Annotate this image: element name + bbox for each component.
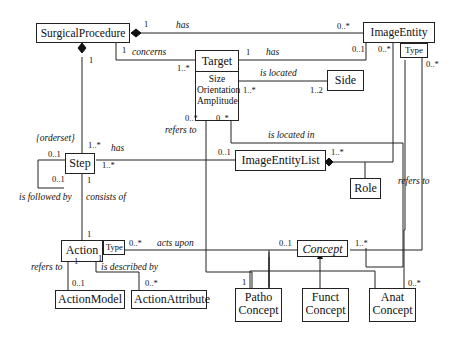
mult-sp-has-ie: 0..* xyxy=(337,21,350,31)
mult-iel-01: 0..1 xyxy=(218,147,231,157)
label-is-described-by: is described by xyxy=(101,262,158,272)
label-is-located: is located xyxy=(260,68,297,78)
mult-sp-concerns-1: 1 xyxy=(122,45,126,55)
label-refers-to-action: refers to xyxy=(31,262,63,272)
composition-diamond xyxy=(78,43,86,53)
label-acts-upon: acts upon xyxy=(157,238,194,248)
mult-target-concerns: 1..* xyxy=(177,63,190,73)
mult-sp-has-1: 1 xyxy=(144,19,148,29)
label-refers-to-image: refers to xyxy=(398,176,430,186)
label-target-has: has xyxy=(266,47,279,57)
mult-action-consists-1: 1 xyxy=(87,229,91,239)
mult-target-has-1: 1 xyxy=(246,47,250,57)
class-target[interactable]: Target Size Orientation Amplitude xyxy=(195,50,239,121)
mult-step-self-01-top: 0..1 xyxy=(48,149,61,159)
class-action[interactable]: Action xyxy=(61,240,103,262)
mult-step-self-01-side: 0..1 xyxy=(52,174,65,184)
mult-ie-type-0star: 0..* xyxy=(426,59,439,69)
mult-concept-1star: 1..* xyxy=(355,238,368,248)
class-action-model[interactable]: ActionModel xyxy=(55,290,125,309)
mult-ie-list-0star: 0..* xyxy=(378,44,391,54)
class-step[interactable]: Step xyxy=(65,153,95,174)
label-refers-to-target: refers to xyxy=(165,125,197,135)
class-funct-concept[interactable]: Funct Concept xyxy=(302,288,349,322)
mult-step-1star-top: 1..* xyxy=(88,140,101,150)
mult-action-0star: 0..* xyxy=(129,238,142,248)
constraint-orderset: {orderset} xyxy=(36,133,75,143)
mult-step-has-1star: 1..* xyxy=(102,160,115,170)
label-is-followed-by: is followed by xyxy=(19,192,72,202)
mult-action-model-01: 0..1 xyxy=(72,278,85,288)
mult-concept-01: 0..1 xyxy=(279,238,292,248)
composition-diamond xyxy=(325,158,333,166)
label-consists-of: consists of xyxy=(86,192,126,202)
mult-step-consists-1: 1 xyxy=(87,175,91,185)
action-type-qualifier: Type xyxy=(103,240,125,255)
class-image-entity-list[interactable]: ImageEntityList xyxy=(235,150,326,171)
target-attributes: Size Orientation Amplitude xyxy=(196,71,238,109)
mult-side-12: 1..2 xyxy=(310,85,323,95)
label-concerns: concerns xyxy=(132,47,166,57)
class-side[interactable]: Side xyxy=(327,70,364,91)
label-is-located-in: is located in xyxy=(268,130,314,140)
composition-diamond xyxy=(131,29,141,37)
mult-target-located-0star: 0..* xyxy=(216,113,229,123)
uml-diagram: SurgicalProcedure ImageEntity Type Targe… xyxy=(0,0,453,338)
mult-iel-1star: 1..* xyxy=(331,147,344,157)
class-image-entity[interactable]: ImageEntity xyxy=(363,22,435,43)
mult-patho-1: 1 xyxy=(242,277,246,287)
class-action-attribute[interactable]: ActionAttribute xyxy=(131,290,207,309)
class-surgical-procedure[interactable]: SurgicalProcedure xyxy=(36,23,130,43)
class-role[interactable]: Role xyxy=(350,178,381,199)
mult-target-side: 1..* xyxy=(243,85,256,95)
label-step-has: has xyxy=(111,143,124,153)
mult-anat-0star: 0..* xyxy=(408,278,421,288)
image-entity-type-qualifier: Type xyxy=(400,43,428,58)
mult-action-attr-1: 1 xyxy=(98,253,102,263)
mult-action-attr-0star: 0..* xyxy=(145,278,158,288)
class-concept[interactable]: Concept xyxy=(297,240,348,257)
class-anat-concept[interactable]: Anat Concept xyxy=(369,288,416,322)
mult-ie-has-01: 0..1 xyxy=(352,44,365,54)
label-has-image-entity: has xyxy=(176,20,189,30)
mult-target-refers-0star: 0..* xyxy=(185,113,198,123)
mult-sp-step-1: 1 xyxy=(89,55,93,65)
mult-action-model-1: 1 xyxy=(74,256,78,266)
class-patho-concept[interactable]: Patho Concept xyxy=(235,288,282,322)
